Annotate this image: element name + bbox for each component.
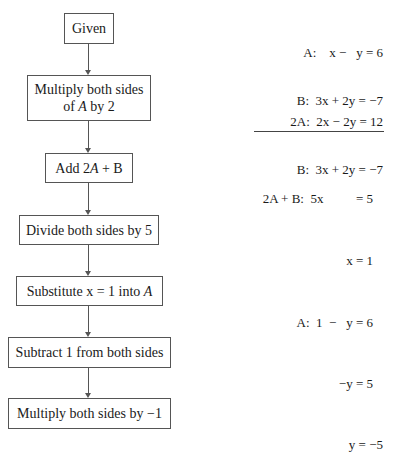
sum-rule-divider [254,131,384,132]
equation-line-2a: 2A: 2x − 2y = 12 [290,114,383,130]
arrow-down-icon [85,332,91,337]
step-add-2a-plus-b: Add 2A + B [45,153,133,183]
connector-line [88,44,89,70]
step-multiply-by-neg1: Multiply both sides by −1 [8,398,171,429]
arrow-down-icon [85,210,91,215]
equation-substituted: A: 1 − y = 6 [297,283,373,347]
step-substitute-x: Substitute x = 1 into A [16,276,163,306]
arrow-down-icon [85,271,91,276]
connector-line [88,183,89,210]
equation-line-a: A: x − y = 6 [297,45,383,61]
step-multiply-a-by-2: Multiply both sides of A by 2 [27,75,151,121]
step-label: Multiply both sides of A by 2 [34,81,144,115]
step-label: Given [72,20,106,37]
step-label: Multiply both sides by −1 [17,405,162,422]
connector-line [88,245,89,271]
step-label: Subtract 1 from both sides [16,344,164,361]
connector-line [88,306,89,332]
equation-x-value: x = 1 [346,221,373,285]
arrow-down-icon [85,70,91,75]
arrow-down-icon [85,393,91,398]
step-label: Divide both sides by 5 [26,222,152,239]
arrow-down-icon [85,148,91,153]
step-label: Substitute x = 1 into A [27,283,153,300]
step-given: Given [64,13,114,44]
step-divide-by-5: Divide both sides by 5 [19,215,159,245]
equation-y-value: y = −5 [349,405,383,456]
step-subtract-1: Subtract 1 from both sides [8,337,171,368]
connector-line [88,121,89,148]
equation-neg-y: −y = 5 [339,344,373,408]
equation-sum: 2A + B: 5x = 5 [263,159,373,223]
step-label: Add 2A + B [55,160,122,177]
connector-line [88,368,89,393]
